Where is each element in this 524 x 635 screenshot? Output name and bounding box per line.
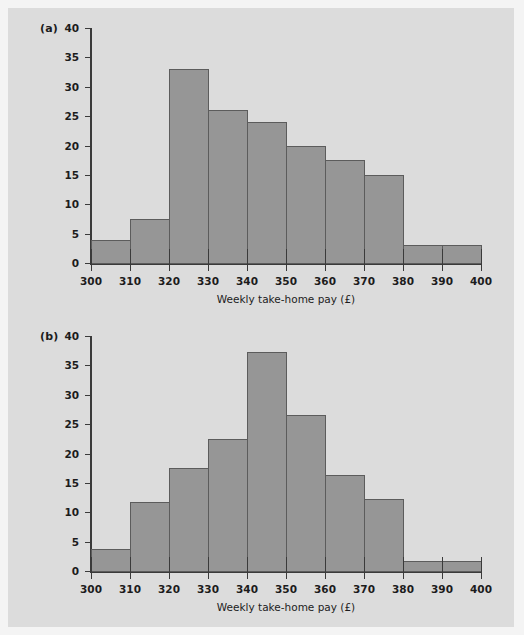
y-axis-tick-label: 5 — [57, 228, 79, 240]
x-axis-tick-label: 380 — [388, 583, 418, 595]
x-axis-tick-overlay — [208, 249, 209, 271]
y-axis-tick — [85, 57, 90, 58]
histogram-bar — [325, 160, 365, 264]
x-axis-tick-label: 320 — [154, 275, 184, 287]
histogram-bar — [403, 561, 443, 572]
x-axis-tick-overlay — [403, 557, 404, 579]
x-axis-tick-label: 390 — [427, 275, 457, 287]
x-axis-label: Weekly take-home pay (£) — [217, 601, 355, 613]
x-axis-tick-label: 390 — [427, 583, 457, 595]
y-axis-tick-label: 20 — [57, 448, 79, 460]
y-axis-tick-label: 10 — [57, 198, 79, 210]
y-axis-tick — [85, 263, 90, 264]
x-axis-tick-overlay — [325, 557, 326, 579]
y-axis-line — [90, 336, 92, 572]
x-axis-tick-label: 330 — [193, 275, 223, 287]
x-axis-tick-overlay — [286, 557, 287, 579]
y-axis-tick-label: 40 — [57, 330, 79, 342]
x-axis-tick-overlay — [442, 557, 443, 579]
y-axis-tick-label: 20 — [57, 140, 79, 152]
x-axis-tick-label: 400 — [466, 583, 496, 595]
y-axis-tick-label: 0 — [57, 257, 79, 269]
x-axis-tick-label: 340 — [232, 275, 262, 287]
figure-histograms: (a) 051015202530354030031032033034035036… — [0, 0, 524, 635]
x-axis-tick-label: 360 — [310, 583, 340, 595]
y-axis-tick — [85, 204, 90, 205]
x-axis-tick-label: 380 — [388, 275, 418, 287]
x-axis-tick-overlay — [169, 249, 170, 271]
histogram-bar — [208, 110, 248, 264]
x-axis-tick-overlay — [325, 249, 326, 271]
y-axis-tick-label: 25 — [57, 110, 79, 122]
y-axis-tick — [85, 175, 90, 176]
x-axis-tick-overlay — [286, 249, 287, 271]
x-axis-tick-label: 350 — [271, 275, 301, 287]
y-axis-tick — [85, 116, 90, 117]
y-axis-tick — [85, 571, 90, 572]
x-axis-tick-overlay — [91, 249, 92, 271]
histogram-bar — [169, 69, 209, 264]
histogram-bar — [364, 175, 404, 264]
x-axis-tick-overlay — [130, 557, 131, 579]
histogram-bar — [403, 245, 443, 264]
y-axis-tick-label: 0 — [57, 565, 79, 577]
x-axis-tick-label: 370 — [349, 583, 379, 595]
y-axis-tick-label: 10 — [57, 506, 79, 518]
x-axis-tick-overlay — [442, 249, 443, 271]
histogram-bar — [247, 352, 287, 572]
x-axis-tick-label: 360 — [310, 275, 340, 287]
histogram-bar — [91, 240, 131, 265]
histogram-bar — [130, 219, 170, 264]
histogram-bar — [286, 415, 326, 572]
y-axis-tick — [85, 454, 90, 455]
y-axis-tick — [85, 542, 90, 543]
y-axis-tick — [85, 365, 90, 366]
histogram-bar — [442, 245, 482, 264]
x-axis-tick-label: 330 — [193, 583, 223, 595]
x-axis-tick-label: 300 — [76, 275, 106, 287]
x-axis-tick-overlay — [481, 557, 482, 579]
y-axis-tick-label: 5 — [57, 536, 79, 548]
chart-panel-a: (a) 051015202530354030031032033034035036… — [8, 8, 514, 316]
histogram-bar — [208, 439, 248, 572]
histogram-bar — [91, 549, 131, 572]
y-axis-tick-label: 30 — [57, 81, 79, 93]
histogram-bar — [286, 146, 326, 265]
histogram-bar — [325, 475, 365, 572]
y-axis-tick — [85, 424, 90, 425]
y-axis-tick — [85, 146, 90, 147]
x-axis-label: Weekly take-home pay (£) — [217, 293, 355, 305]
y-axis-tick-label: 25 — [57, 418, 79, 430]
x-axis-tick-label: 400 — [466, 275, 496, 287]
histogram-bar — [442, 561, 482, 572]
x-axis-tick-overlay — [364, 249, 365, 271]
y-axis-line — [90, 28, 92, 264]
x-axis-tick-label: 350 — [271, 583, 301, 595]
y-axis-tick-label: 35 — [57, 51, 79, 63]
plot-area-a: 0510152025303540300310320330340350360370… — [8, 8, 514, 319]
x-axis-tick-overlay — [130, 249, 131, 271]
y-axis-tick — [85, 512, 90, 513]
x-axis-tick-overlay — [247, 557, 248, 579]
y-axis-tick-label: 15 — [57, 477, 79, 489]
histogram-bar — [130, 502, 170, 572]
y-axis-tick — [85, 87, 90, 88]
x-axis-tick-overlay — [169, 557, 170, 579]
histogram-bar — [364, 499, 404, 572]
y-axis-tick-label: 30 — [57, 389, 79, 401]
x-axis-tick-label: 310 — [115, 583, 145, 595]
x-axis-tick-overlay — [364, 557, 365, 579]
chart-panel-b: (b) 051015202530354030031032033034035036… — [8, 316, 514, 627]
y-axis-tick-label: 15 — [57, 169, 79, 181]
y-axis-tick-label: 40 — [57, 22, 79, 34]
y-axis-tick — [85, 395, 90, 396]
y-axis-tick — [85, 28, 90, 29]
x-axis-tick-label: 300 — [76, 583, 106, 595]
x-axis-tick-overlay — [481, 249, 482, 271]
y-axis-tick-label: 35 — [57, 359, 79, 371]
x-axis-tick-label: 340 — [232, 583, 262, 595]
x-axis-tick-overlay — [247, 249, 248, 271]
y-axis-tick — [85, 483, 90, 484]
x-axis-tick-label: 310 — [115, 275, 145, 287]
histogram-bar — [247, 122, 287, 264]
